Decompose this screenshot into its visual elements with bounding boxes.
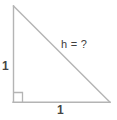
- horizontal-leg-label: 1: [57, 104, 64, 116]
- hypotenuse-label: h = ?: [61, 39, 87, 50]
- hypotenuse-line: [14, 6, 111, 102]
- right-triangle-figure: 1 1 h = ?: [0, 0, 117, 120]
- triangle-drawing: [0, 0, 117, 120]
- right-angle-marker: [14, 93, 23, 103]
- vertical-leg-label: 1: [2, 60, 9, 72]
